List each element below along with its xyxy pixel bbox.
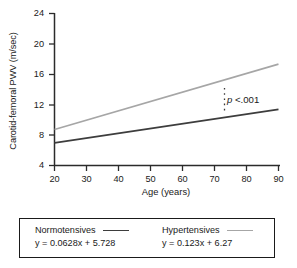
legend-label-normotensives: Normotensives [35,225,96,235]
y-tick-label-4: 4 [22,160,44,170]
legend-head-hypertensives: Hypertensives [162,225,274,235]
x-tick-label-60: 60 [171,174,195,184]
plot-area: Carotid-femoral PWV (m/sec) 24 20 16 12 … [0,0,297,205]
legend-label-hypertensives: Hypertensives [162,225,220,235]
x-tick-label-40: 40 [107,174,131,184]
x-tick-label-50: 50 [139,174,163,184]
y-tick-label-12: 12 [22,100,44,110]
y-tick-marks [49,14,55,166]
x-tick-label-80: 80 [235,174,259,184]
legend-head-normotensives: Normotensives [35,225,147,235]
legend-inner: Normotensives y = 0.0628x + 5.728 Hypert… [20,219,274,257]
x-tick-marks [55,166,279,172]
y-axis-title: Carotid-femoral PWV (m/sec) [8,16,18,166]
x-tick-label-30: 30 [75,174,99,184]
p-value-text: <.001 [232,94,259,105]
x-tick-label-20: 20 [43,174,67,184]
y-tick-label-20: 20 [22,39,44,49]
legend-equation-hypertensives: y = 0.123x + 6.27 [162,238,274,248]
x-tick-label-90: 90 [267,174,291,184]
series-line-normotensives [55,109,279,142]
legend-line-swatch-hypertensives [227,230,253,231]
legend-entry-hypertensives: Hypertensives y = 0.123x + 6.27 [147,219,274,257]
legend-line-swatch-normotensives [103,230,129,231]
x-axis-title: Age (years) [54,186,278,197]
y-tick-label-16: 16 [22,69,44,79]
p-value-annotation: p <.001 [227,94,259,105]
x-tick-label-70: 70 [203,174,227,184]
legend-equation-normotensives: y = 0.0628x + 5.728 [35,238,147,248]
y-tick-label-24: 24 [22,8,44,18]
legend-box: Normotensives y = 0.0628x + 5.728 Hypert… [19,218,275,258]
figure-container: Carotid-femoral PWV (m/sec) 24 20 16 12 … [0,0,297,268]
y-tick-label-8: 8 [22,130,44,140]
legend-entry-normotensives: Normotensives y = 0.0628x + 5.728 [20,219,147,257]
